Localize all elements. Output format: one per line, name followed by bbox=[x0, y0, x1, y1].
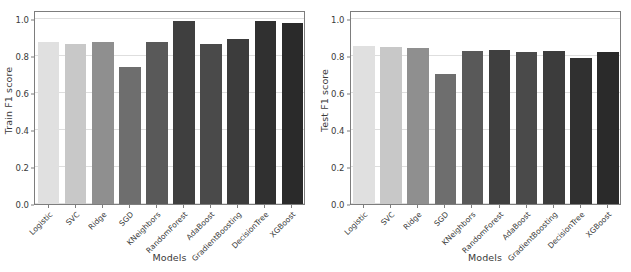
x-tick-label: SGD bbox=[117, 210, 135, 228]
chart-panel-train: Train F1 score 0.00.20.40.60.81.0 Logist… bbox=[0, 0, 316, 272]
bar bbox=[173, 21, 195, 204]
bar bbox=[462, 51, 484, 204]
bar bbox=[65, 44, 87, 204]
x-axis-label-train: Models bbox=[34, 252, 305, 263]
bar bbox=[353, 46, 375, 204]
bar bbox=[543, 51, 565, 204]
bar bbox=[227, 39, 249, 204]
x-tick-mark bbox=[183, 205, 184, 208]
bar-series-test bbox=[351, 12, 620, 204]
bar bbox=[435, 74, 457, 204]
x-axis-label-test: Models bbox=[350, 252, 621, 263]
y-axis-ticks-test: 0.00.20.40.60.81.0 bbox=[316, 11, 350, 205]
x-axis-ticks-train: LogisticSVCRidgeSGDKNeighborsRandomFores… bbox=[34, 205, 305, 250]
bar bbox=[516, 52, 538, 204]
x-tick-mark bbox=[237, 205, 238, 208]
y-tick-label: 0.2 bbox=[331, 163, 345, 173]
x-tick-mark bbox=[363, 205, 364, 208]
bar bbox=[407, 48, 429, 204]
bar bbox=[282, 23, 304, 204]
x-tick-mark bbox=[444, 205, 445, 208]
y-tick-label: 0.4 bbox=[15, 126, 29, 136]
x-tick-mark bbox=[417, 205, 418, 208]
bar bbox=[200, 44, 222, 204]
y-tick-label: 1.0 bbox=[15, 15, 29, 25]
bar bbox=[119, 67, 141, 204]
x-tick-label: XGBoost bbox=[584, 210, 613, 239]
bar bbox=[380, 47, 402, 204]
x-tick-mark bbox=[607, 205, 608, 208]
bar bbox=[570, 58, 592, 204]
x-tick-mark bbox=[291, 205, 292, 208]
plot-area-train bbox=[34, 11, 305, 205]
y-tick-label: 0.8 bbox=[15, 52, 29, 62]
x-tick-mark bbox=[471, 205, 472, 208]
x-tick-label: XGBoost bbox=[268, 210, 297, 239]
x-tick-label: SGD bbox=[433, 210, 451, 228]
x-tick-mark bbox=[156, 205, 157, 208]
x-tick-label: Logistic bbox=[27, 210, 54, 237]
bar bbox=[92, 42, 114, 204]
y-tick-label: 0.2 bbox=[15, 163, 29, 173]
x-tick-mark bbox=[210, 205, 211, 208]
plot-area-test bbox=[350, 11, 621, 205]
x-tick-mark bbox=[102, 205, 103, 208]
x-axis-ticks-test: LogisticSVCRidgeSGDKNeighborsRandomFores… bbox=[350, 205, 621, 250]
x-tick-mark bbox=[264, 205, 265, 208]
y-tick-label: 0.6 bbox=[331, 89, 345, 99]
x-tick-mark bbox=[129, 205, 130, 208]
chart-panel-test: Test F1 score 0.00.20.40.60.81.0 Logisti… bbox=[316, 0, 631, 272]
bar bbox=[597, 52, 619, 204]
x-tick-mark bbox=[526, 205, 527, 208]
y-tick-label: 0.0 bbox=[15, 200, 29, 210]
x-tick-label: Ridge bbox=[86, 210, 108, 232]
y-axis-ticks-train: 0.00.20.40.60.81.0 bbox=[0, 11, 34, 205]
x-tick-label: Ridge bbox=[402, 210, 424, 232]
bar bbox=[489, 50, 511, 204]
x-tick-label: SVC bbox=[64, 210, 81, 227]
y-tick-label: 0.4 bbox=[331, 126, 345, 136]
x-tick-mark bbox=[75, 205, 76, 208]
y-tick-label: 0.0 bbox=[331, 200, 345, 210]
x-tick-mark bbox=[553, 205, 554, 208]
x-tick-mark bbox=[499, 205, 500, 208]
y-tick-label: 1.0 bbox=[331, 15, 345, 25]
y-tick-label: 0.8 bbox=[331, 52, 345, 62]
bar bbox=[38, 42, 60, 204]
bar-series-train bbox=[35, 12, 304, 204]
x-tick-mark bbox=[390, 205, 391, 208]
bar bbox=[255, 21, 277, 204]
bar bbox=[146, 42, 168, 204]
figure-canvas: Train F1 score 0.00.20.40.60.81.0 Logist… bbox=[0, 0, 631, 272]
x-tick-mark bbox=[580, 205, 581, 208]
y-tick-label: 0.6 bbox=[15, 89, 29, 99]
x-tick-label: SVC bbox=[379, 210, 396, 227]
x-tick-mark bbox=[48, 205, 49, 208]
